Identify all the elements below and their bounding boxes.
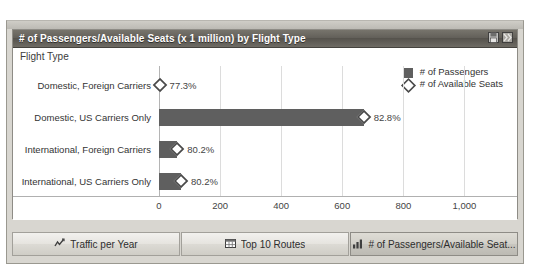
panel-title: # of Passengers/Available Seats (x 1 mil…	[13, 33, 306, 44]
line-chart-icon	[54, 238, 65, 251]
data-point-marker[interactable]: 80.2%	[171, 143, 214, 155]
diamond-icon	[170, 142, 185, 157]
tab-label: Top 10 Routes	[241, 239, 306, 250]
dashboard-window: # of Passengers/Available Seats (x 1 mil…	[6, 20, 524, 264]
chart-category-row: Domestic, US Carriers Only82.8%	[13, 102, 517, 134]
diamond-icon	[174, 174, 189, 189]
data-point-label: 82.8%	[374, 112, 401, 123]
data-point-label: 80.2%	[187, 144, 214, 155]
data-point-label: 80.2%	[191, 176, 218, 187]
diamond-icon	[356, 110, 371, 125]
data-point-marker[interactable]: 80.2%	[175, 175, 218, 187]
chart-category-row: Domestic, Foreign Carriers77.3%	[13, 70, 517, 102]
x-axis-tick-label: 0	[156, 200, 161, 211]
x-axis-line	[13, 196, 517, 197]
bar[interactable]	[159, 109, 364, 126]
export-icon[interactable]	[502, 32, 513, 43]
chart-category-row: International, Foreign Carriers80.2%	[13, 134, 517, 166]
y-axis-caption: Flight Type	[20, 51, 69, 62]
bar-chart-icon	[352, 238, 363, 251]
category-label: International, US Carriers Only	[19, 166, 151, 198]
window-top-strip	[7, 21, 523, 29]
panel-header: # of Passengers/Available Seats (x 1 mil…	[13, 30, 517, 48]
x-axis-tick-label: 800	[395, 200, 411, 211]
x-axis-tick-label: 1,000	[453, 200, 477, 211]
plot-area: Domestic, Foreign Carriers77.3%Domestic,…	[13, 66, 517, 220]
tab-bar: Traffic per YearTop 10 Routes# of Passen…	[12, 232, 518, 256]
category-label: Domestic, US Carriers Only	[19, 102, 151, 134]
diamond-icon	[152, 78, 167, 93]
chart-category-row: International, US Carriers Only80.2%	[13, 166, 517, 198]
save-icon[interactable]	[488, 32, 499, 43]
panel-header-icons	[488, 32, 513, 43]
tab-label: # of Passengers/Available Seat...	[368, 239, 515, 250]
tab-3[interactable]: # of Passengers/Available Seat...	[350, 232, 518, 256]
chart-panel: # of Passengers/Available Seats (x 1 mil…	[12, 29, 518, 219]
tab-2[interactable]: Top 10 Routes	[181, 232, 349, 256]
tab-1[interactable]: Traffic per Year	[12, 232, 180, 256]
x-axis: 02004006008001,000	[13, 196, 517, 218]
data-point-marker[interactable]: 82.8%	[358, 111, 401, 123]
chart-body: Flight Type # of Passengers # of Availab…	[13, 48, 517, 220]
x-axis-tick-label: 600	[334, 200, 350, 211]
x-axis-tick-label: 400	[273, 200, 289, 211]
category-label: Domestic, Foreign Carriers	[19, 70, 151, 102]
category-label: International, Foreign Carriers	[19, 134, 151, 166]
data-point-label: 77.3%	[170, 80, 197, 91]
table-icon	[225, 238, 236, 251]
data-point-marker[interactable]: 77.3%	[154, 79, 197, 91]
tab-label: Traffic per Year	[70, 239, 137, 250]
x-axis-tick-label: 200	[212, 200, 228, 211]
